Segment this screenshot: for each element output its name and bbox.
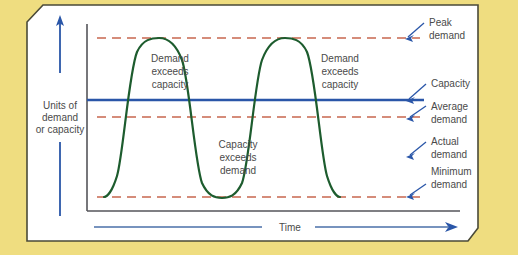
callout-line: demand bbox=[431, 179, 467, 190]
callout-line: Minimum bbox=[431, 166, 472, 177]
capacity-demand-figure: Units of demand or capacity bbox=[0, 0, 518, 255]
annotation-line: capacity bbox=[322, 79, 359, 90]
annotation-line: Demand bbox=[321, 53, 359, 64]
annotation-line: demand bbox=[220, 165, 256, 176]
callout-line: demand bbox=[431, 149, 467, 160]
annotation-line: capacity bbox=[152, 79, 189, 90]
annotation-line: exceeds bbox=[219, 152, 256, 163]
annotation-capacity-exceeds-demand: Capacity exceeds demand bbox=[219, 139, 258, 176]
annotation-demand-exceeds-capacity-right: Demand exceeds capacity bbox=[321, 53, 359, 90]
figure-svg: Units of demand or capacity bbox=[0, 0, 518, 255]
annotation-demand-exceeds-capacity-left: Demand exceeds capacity bbox=[151, 53, 189, 90]
y-axis-label-line3: or capacity bbox=[36, 124, 84, 135]
annotation-line: exceeds bbox=[321, 66, 358, 77]
callout-line: Actual bbox=[431, 136, 459, 147]
callout-line: Capacity bbox=[431, 78, 470, 89]
x-axis-label: Time bbox=[279, 222, 301, 233]
annotation-line: exceeds bbox=[151, 66, 188, 77]
annotation-line: Demand bbox=[151, 53, 189, 64]
y-axis-label-line1: Units of bbox=[43, 100, 77, 111]
callout-line: Average bbox=[431, 101, 469, 112]
callout-line: demand bbox=[429, 30, 465, 41]
y-axis-label-line2: demand bbox=[42, 112, 78, 123]
callout-line: demand bbox=[431, 114, 467, 125]
callout-line: Peak bbox=[429, 17, 453, 28]
annotation-line: Capacity bbox=[219, 139, 258, 150]
